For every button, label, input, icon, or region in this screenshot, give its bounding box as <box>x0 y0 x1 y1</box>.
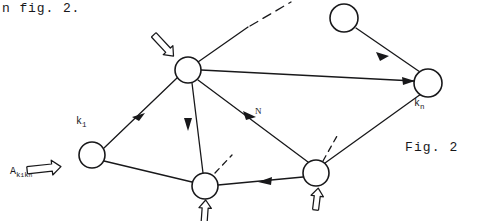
top-caption-text: n fig. 2. <box>2 1 80 16</box>
node-label-k1-subscript: 1 <box>82 121 87 129</box>
arrowhead-topright-to-kn <box>376 52 389 61</box>
edge-k1-to-bottom-left <box>104 161 192 182</box>
node-label-k1: k1 <box>76 116 87 129</box>
bottom-right-node <box>303 160 329 186</box>
dashed-ray-from-top-node <box>250 2 291 26</box>
edge-top-to-kn <box>201 70 414 81</box>
bottom-left-node <box>192 173 218 199</box>
dashed-stub-bottom-left-node <box>215 155 232 173</box>
arrowhead-top-to-bottom-left <box>184 118 192 131</box>
node-kn <box>414 69 442 97</box>
edge-bottom-right-to-bottom-left <box>218 177 303 185</box>
node-k1 <box>79 142 105 168</box>
top-right-node <box>330 4 358 32</box>
double-arrow-into-bottom-right-node <box>309 187 324 210</box>
arrowhead-top-to-kn <box>402 77 415 85</box>
dashed-stub-bottom-right-node <box>323 136 337 161</box>
edge-k1-to-top <box>104 78 177 148</box>
node-label-kn-subscript: n <box>420 103 425 111</box>
node-label-kn: kn <box>414 98 425 111</box>
edge-top-open-ray <box>198 27 248 62</box>
edge-top-to-bottom-right <box>198 80 308 162</box>
graph-diagram <box>0 0 477 221</box>
edge-label-n: N <box>255 106 262 116</box>
operator-label-a-sub-kn-index: n <box>29 172 33 179</box>
double-arrow-into-top-node <box>149 30 178 60</box>
edge-topright-to-kn <box>356 28 420 72</box>
edge-top-to-bottom-left <box>192 83 203 173</box>
figure-page: n fig. 2. Fig. 2 k1 kn N Ak1kn <box>0 0 477 221</box>
top-node <box>175 57 201 83</box>
figure-caption: Fig. 2 <box>405 140 458 155</box>
double-arrow-into-bottom-left-node <box>198 200 212 221</box>
operator-label-a: Ak1kn <box>10 166 32 179</box>
